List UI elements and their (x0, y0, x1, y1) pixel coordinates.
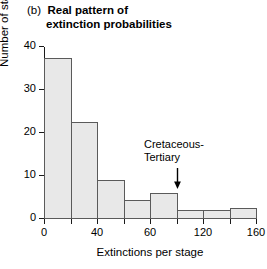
panel-letter: (b) (27, 4, 41, 16)
chart-title-line-2: extinction probabilities (46, 17, 242, 31)
x-axis-tick: 120 (203, 219, 204, 224)
annotation-line-1: Cretaceous- (144, 138, 204, 151)
y-axis-tick-label: 0 (30, 211, 36, 223)
chart-title-text-1: Real pattern of (47, 4, 128, 16)
x-axis-tick-label: 60 (144, 226, 156, 238)
chart-title: (b) Real pattern of extinction probabili… (27, 3, 242, 31)
histogram-bar (177, 210, 205, 219)
histogram-bar (71, 122, 99, 219)
x-axis-tick-label: 120 (194, 226, 212, 238)
histogram-bar (97, 180, 125, 219)
y-axis-tick-label: 30 (24, 82, 36, 94)
x-axis-tick: 60 (150, 219, 151, 224)
chart-title-line-1: (b) Real pattern of (27, 3, 242, 17)
down-arrow-icon (173, 168, 182, 190)
x-axis-label: Extinctions per stage (44, 246, 256, 258)
histogram-bar (44, 58, 72, 219)
extinction-probability-histogram-figure: (b) Real pattern of extinction probabili… (0, 0, 267, 269)
x-axis-tick (230, 219, 231, 224)
cretaceous-tertiary-annotation: Cretaceous- Tertiary (144, 138, 204, 163)
histogram-bar (203, 210, 231, 219)
x-axis-tick: 40 (97, 219, 98, 224)
y-axis-tick-label: 10 (24, 168, 36, 180)
histogram-bar (150, 193, 178, 219)
y-axis-tick-label: 20 (24, 125, 36, 137)
annotation-line-2: Tertiary (144, 151, 204, 164)
y-axis-tick: 40 (39, 46, 44, 47)
x-axis-tick-label: 160 (247, 226, 265, 238)
y-axis-label: Number of stages (0, 0, 10, 67)
plot-area: 010203040 04060120160 (44, 47, 256, 219)
y-axis-tick-label: 40 (24, 39, 36, 51)
x-axis-tick: 0 (44, 219, 45, 224)
x-axis-tick (177, 219, 178, 224)
x-axis-tick-label: 40 (91, 226, 103, 238)
x-axis-tick (71, 219, 72, 224)
x-axis-tick (124, 219, 125, 224)
histogram-bar (230, 208, 258, 219)
histogram-bar (124, 200, 152, 219)
x-axis-tick-label: 0 (41, 226, 47, 238)
x-axis-tick: 160 (256, 219, 257, 224)
